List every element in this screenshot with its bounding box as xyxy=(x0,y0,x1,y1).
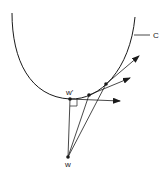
curve-c-label: C xyxy=(153,31,159,40)
point-p3 xyxy=(104,82,108,86)
segment-w-p3 xyxy=(68,84,106,157)
point-p2 xyxy=(87,93,91,97)
tangent-arrow-wprime xyxy=(70,99,120,101)
curve-c xyxy=(12,13,135,99)
segment-w-wprime xyxy=(68,99,70,157)
tangent-arrow-p3 xyxy=(106,56,139,84)
point-w-prime-label: w' xyxy=(65,88,74,97)
point-w-label: w xyxy=(64,160,71,169)
diagram-canvas: C w' w xyxy=(0,0,165,171)
point-w xyxy=(66,155,70,159)
segment-w-p2 xyxy=(68,95,89,157)
point-w-prime xyxy=(68,97,72,101)
